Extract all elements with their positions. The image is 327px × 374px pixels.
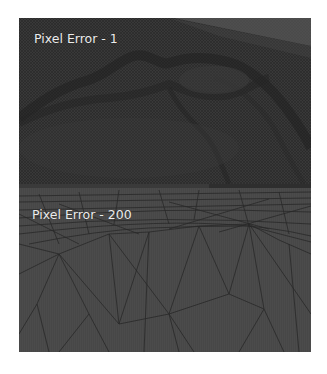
pixel-error-200-label: Pixel Error - 200 (32, 207, 132, 222)
panel-pixel-error-1: Pixel Error - 1 (19, 18, 311, 184)
pixel-error-1-label: Pixel Error - 1 (34, 31, 118, 46)
terrain-comparison-figure: Pixel Error - 1 (19, 18, 311, 352)
panel-pixel-error-200: Pixel Error - 200 (19, 184, 311, 352)
